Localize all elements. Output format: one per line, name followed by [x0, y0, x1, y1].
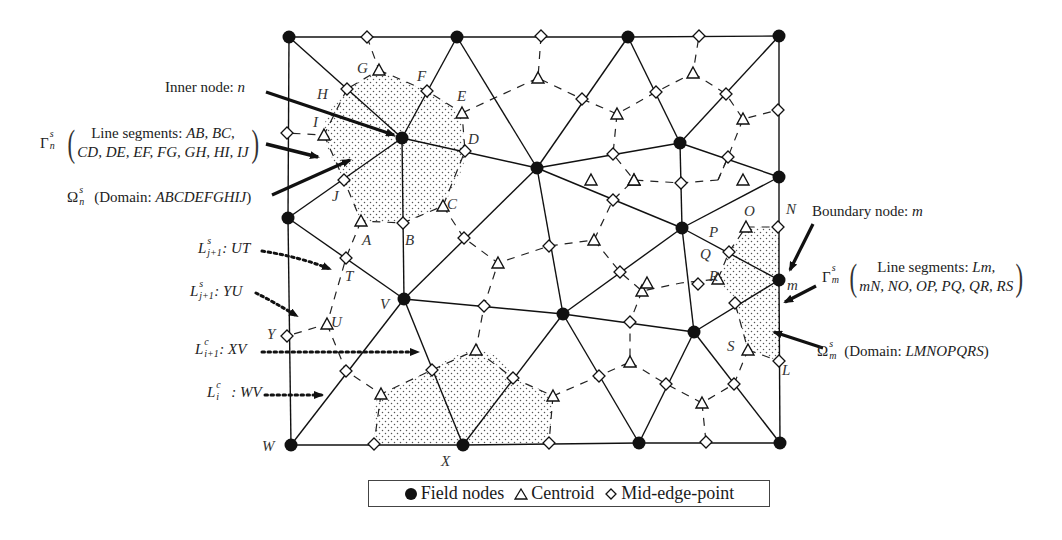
- mid-edge-point-icon: [281, 330, 293, 342]
- mid-edge-point-icon: [543, 240, 555, 252]
- point-label-S: S: [727, 338, 735, 355]
- mesh-edge: [682, 228, 694, 332]
- mid-edge-point-icon: [576, 93, 588, 105]
- legend-centroid: Centroid: [514, 483, 594, 504]
- label-L-UT: Lsj+1: UT: [198, 240, 250, 259]
- filled-circle-icon: [404, 487, 418, 501]
- centroid-triangle-icon: [611, 108, 623, 119]
- mid-edge-point-icon: [593, 370, 605, 382]
- point-label-C: C: [447, 196, 457, 213]
- mid-edge-point-icon: [772, 104, 784, 116]
- point-label-E: E: [457, 88, 466, 105]
- point-label-I: I: [313, 114, 318, 131]
- point-label-D: D: [468, 131, 479, 148]
- label-L-YU: Lsj+1: YU: [190, 283, 242, 302]
- centroid-triangle-icon: [470, 344, 482, 355]
- legend: Field nodes Centroid Mid-edge-point: [368, 480, 770, 507]
- legend-field-nodes: Field nodes: [404, 483, 505, 504]
- domain-bottom: [374, 350, 553, 444]
- mid-edge-point-icon: [361, 31, 373, 43]
- field-node-icon: [688, 326, 701, 339]
- arrow-L-UT: [262, 251, 330, 269]
- mid-edge-point-icon: [650, 86, 662, 98]
- centroid-triangle-icon: [585, 174, 597, 185]
- label-boundary-node: Boundary node: m: [812, 203, 923, 220]
- mesh-edge: [680, 36, 779, 143]
- field-node-icon: [451, 31, 464, 44]
- field-node-icon: [773, 171, 786, 184]
- point-label-P: P: [709, 224, 718, 241]
- mid-edge-point-icon: [675, 177, 687, 189]
- field-node-icon: [285, 439, 298, 452]
- mid-edge-point-icon: [700, 436, 712, 448]
- label-omega-n: Ωsn(Domain: ABCDEFGHIJ): [67, 189, 251, 208]
- centroid-triangle-icon: [492, 257, 504, 268]
- point-label-V: V: [380, 296, 389, 313]
- point-label-W: W: [262, 438, 275, 455]
- field-node-icon: [557, 308, 570, 321]
- field-node-icon: [531, 162, 544, 175]
- arrow-boundary-node: [790, 224, 813, 270]
- point-label-J: J: [332, 188, 339, 205]
- label-L-WV: Lci: WV: [207, 384, 262, 403]
- field-node-icon: [773, 30, 786, 43]
- point-label-B: B: [405, 232, 414, 249]
- centroid-triangle-icon: [737, 113, 749, 124]
- centroid-triangle-icon: [588, 234, 600, 245]
- mesh-edge: [682, 177, 779, 228]
- mid-edge-point-icon: [340, 365, 352, 377]
- point-label-A: A: [362, 232, 371, 249]
- centroid-triangle-icon: [696, 397, 708, 408]
- field-node-icon: [676, 222, 689, 235]
- mid-edge-point-icon: [693, 30, 705, 42]
- point-label-G: G: [357, 60, 368, 77]
- field-node-icon: [283, 31, 296, 44]
- point-label-N: N: [786, 201, 796, 218]
- mid-edge-point-icon: [607, 148, 619, 160]
- arrow-omega-m: [774, 332, 823, 348]
- point-label-F: F: [417, 68, 426, 85]
- arrow-gamma-n: [266, 144, 318, 157]
- mid-edge-point-icon: [624, 316, 636, 328]
- mid-edge-point-icon: [478, 300, 490, 312]
- mid-edge-point-icon: [458, 232, 470, 244]
- mid-edge-point-icon: [692, 278, 704, 290]
- point-label-m: m: [787, 277, 798, 294]
- point-label-H: H: [317, 86, 328, 103]
- legend-mid-edge: Mid-edge-point: [604, 483, 734, 504]
- diamond-icon: [604, 487, 618, 501]
- label-gamma-n: Γ sn ( Line segments: AB, BC, CD, DE, EF…: [40, 124, 261, 162]
- point-label-R: R: [709, 268, 718, 285]
- point-label-T: T: [345, 268, 353, 285]
- mid-edge-point-icon: [281, 127, 293, 139]
- centroid-triangle-icon: [641, 277, 653, 288]
- arrow-L-YU: [256, 293, 297, 316]
- centroid-triangle-icon: [687, 67, 699, 78]
- label-inner-node: Inner node: n: [165, 79, 245, 96]
- field-node-icon: [282, 212, 295, 225]
- label-omega-m: Ωsm(Domain: LMNOPQRS): [817, 343, 989, 362]
- point-label-O: O: [744, 203, 755, 220]
- field-node-icon: [633, 437, 646, 450]
- mid-edge-point-icon: [535, 30, 547, 42]
- triangle-icon: [514, 487, 528, 501]
- label-L-XV: Lci+1: XV: [195, 341, 246, 360]
- point-label-Y: Y: [267, 326, 275, 343]
- field-node-icon: [774, 437, 787, 450]
- point-label-X: X: [441, 453, 450, 470]
- point-label-U: U: [331, 314, 342, 331]
- centroid-triangle-icon: [532, 72, 544, 83]
- field-node-icon: [674, 137, 687, 150]
- centroid-triangle-icon: [624, 356, 636, 367]
- field-node-icon: [396, 132, 409, 145]
- field-node-icon: [773, 274, 786, 287]
- label-gamma-m: Γ sm ( Line segments: Lm, mN, NO, OP, PQ…: [822, 258, 1026, 296]
- field-node-icon: [457, 439, 470, 452]
- point-label-L: L: [782, 362, 790, 379]
- field-node-icon: [622, 31, 635, 44]
- centroid-triangle-icon: [373, 64, 385, 75]
- centroid-triangle-icon: [737, 174, 749, 185]
- field-node-icon: [398, 293, 411, 306]
- point-label-Q: Q: [700, 246, 711, 263]
